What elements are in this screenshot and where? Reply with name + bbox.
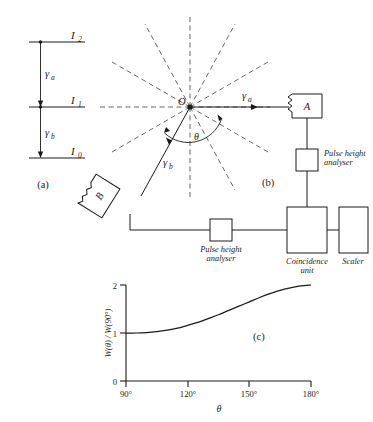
level-sub-I2: 2 — [78, 35, 82, 44]
coincidence-unit-label-line2: unit — [300, 266, 314, 275]
gamma-b-ray-sub: b — [169, 162, 173, 171]
chart-xtick-label-90: 90° — [120, 389, 133, 399]
arrowhead-gamma-a — [38, 101, 43, 108]
transition-label-gamma-a: γ — [45, 68, 50, 79]
scaler-box[interactable] — [339, 207, 368, 253]
dashed-ray-up-right-shallow — [190, 62, 268, 107]
panel-b-apparatus: O γ a γ b θ A B — [78, 16, 368, 275]
pha-bottom-label-line1: Pulse height — [199, 245, 242, 254]
detector-a-label: A — [303, 101, 311, 112]
detector-b[interactable]: B — [78, 174, 120, 218]
panel-c-chart: 2 1 0 90° 120° 150° 180° θ W(θ) / W(90°)… — [103, 281, 320, 414]
theta-arc-arrowhead-b — [164, 127, 170, 133]
pulse-height-analyser-right-box[interactable] — [296, 149, 318, 171]
origin-label: O — [178, 96, 186, 107]
theta-angle-label: θ — [194, 131, 199, 142]
dashed-ray-down-right-shallow — [190, 107, 268, 152]
chart-ytick-label-2: 2 — [113, 281, 117, 291]
chart-xlabel: θ — [217, 403, 222, 414]
scaler-label: Scaler — [342, 257, 364, 266]
panel-b-label: (b) — [262, 177, 275, 189]
chart-ytick-label-1: 1 — [113, 329, 117, 339]
gamma-a-ray-label: γ — [242, 90, 247, 101]
gamma-b-ray — [141, 107, 190, 196]
level-label-I2: I — [70, 29, 76, 41]
pulse-height-analyser-bottom-box[interactable] — [210, 219, 232, 241]
chart-ytick-label-0: 0 — [113, 377, 117, 387]
gamma-a-arrowhead — [251, 104, 258, 110]
figure-root: I 2 I 1 I 0 γ a γ b (a) — [0, 0, 373, 422]
coincidence-unit-label-line1: Coincidence — [286, 257, 328, 266]
dashed-ray-up-right-steep — [190, 24, 235, 107]
level-label-I1: I — [70, 94, 76, 106]
physics-figure: I 2 I 1 I 0 γ a γ b (a) — [0, 0, 373, 422]
panel-c-label: (c) — [253, 331, 265, 343]
theta-angle-arc — [165, 119, 222, 142]
dashed-ray-up-left-steep — [145, 24, 190, 107]
transition-label-gamma-b: γ — [45, 127, 50, 138]
transition-sub-gamma-b: b — [51, 132, 55, 141]
arrowhead-gamma-b — [38, 152, 43, 159]
gamma-b-arrowhead — [166, 138, 172, 146]
theta-arc-arrowhead-a — [218, 115, 223, 122]
panel-a-label: (a) — [37, 179, 49, 191]
coincidence-unit-box[interactable] — [287, 207, 327, 253]
panel-a-level-diagram: I 2 I 1 I 0 γ a γ b (a) — [29, 29, 85, 191]
chart-xtick-label-180: 180° — [303, 389, 320, 399]
chart-curve — [126, 285, 311, 333]
gamma-b-ray-label: γ — [163, 157, 168, 168]
chart-xtick-label-150: 150° — [241, 389, 258, 399]
chart-xtick-label-120: 120° — [180, 389, 197, 399]
pha-right-label-line1: Pulse height — [323, 149, 366, 158]
level-sub-I1: 1 — [78, 100, 82, 109]
dashed-ray-down-right-steep — [190, 107, 235, 190]
pha-bottom-label-line2: analyser — [207, 254, 237, 263]
transition-sub-gamma-a: a — [51, 73, 55, 82]
level-label-I0: I — [70, 145, 76, 157]
detector-a[interactable]: A — [288, 94, 322, 118]
level-sub-I0: 0 — [78, 151, 82, 160]
chart-ylabel: W(θ) / W(90°) — [103, 309, 113, 358]
dashed-ray-down-left-shallow — [112, 107, 190, 152]
gamma-a-ray-sub: a — [248, 95, 252, 104]
pha-right-label-line2: analyser — [324, 158, 354, 167]
